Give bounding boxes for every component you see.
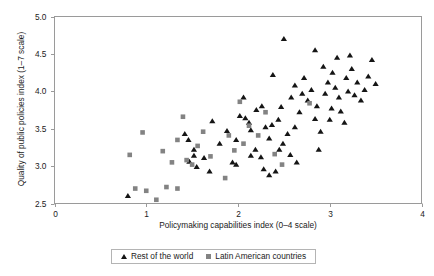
triangle-data-point	[269, 122, 275, 127]
triangle-data-point	[266, 172, 272, 177]
legend-entry-rest-of-world[interactable]: Rest of the world	[121, 252, 193, 260]
triangle-data-point	[308, 87, 314, 92]
square-data-point	[170, 160, 175, 165]
triangle-data-point	[351, 92, 357, 97]
y-tick-marks	[51, 18, 55, 205]
triangle-data-point	[358, 97, 364, 102]
triangle-data-point	[281, 36, 287, 41]
triangle-data-point	[301, 75, 307, 80]
triangle-data-point	[327, 117, 333, 122]
scatter-plot-figure: Quality of public policies index (1–7 sc…	[0, 0, 434, 276]
triangle-data-point	[287, 152, 293, 157]
square-data-point	[181, 114, 186, 119]
triangle-data-point	[343, 75, 349, 80]
triangle-data-point	[194, 164, 200, 169]
x-tick-label: 0	[46, 209, 66, 219]
triangle-data-point	[338, 109, 344, 114]
y-tick-label: 3.5	[23, 124, 47, 134]
data-points-layer	[125, 36, 379, 202]
square-data-point	[154, 197, 159, 202]
triangle-data-point	[276, 147, 282, 152]
triangle-data-point	[294, 159, 300, 164]
square-data-point	[241, 141, 246, 146]
square-data-point	[223, 176, 228, 181]
x-tick-marks	[56, 204, 423, 208]
y-tick-label: 5.0	[23, 12, 47, 22]
axes-group	[54, 16, 422, 204]
triangle-data-point	[229, 159, 235, 164]
triangle-data-point	[240, 94, 246, 99]
triangle-data-point	[185, 137, 191, 142]
x-tick-label: 1	[137, 209, 157, 219]
triangle-data-point	[217, 141, 223, 146]
square-data-point	[144, 188, 149, 193]
triangle-data-point	[266, 136, 272, 141]
square-data-point	[175, 186, 180, 191]
triangle-data-point	[296, 109, 302, 114]
square-data-point	[263, 110, 268, 115]
triangle-data-point	[328, 106, 334, 111]
chart-legend: Rest of the world Latin American countri…	[111, 249, 316, 264]
y-tick-label: 4.0	[23, 86, 47, 96]
triangle-data-point	[182, 131, 188, 136]
x-tick-label: 3	[321, 209, 341, 219]
square-data-point	[133, 186, 138, 191]
triangle-data-point	[334, 55, 340, 60]
triangle-data-point	[275, 117, 281, 122]
triangle-data-point	[288, 94, 294, 99]
triangle-data-point	[312, 47, 318, 52]
triangle-data-point	[292, 124, 298, 129]
triangle-data-point	[191, 153, 197, 158]
triangle-data-point	[347, 52, 353, 57]
triangle-data-point	[365, 73, 371, 78]
square-data-point	[160, 149, 165, 154]
triangle-data-point	[261, 166, 267, 171]
triangle-data-point	[258, 154, 264, 159]
x-tick-label: 4	[413, 209, 433, 219]
triangle-data-point	[278, 104, 284, 109]
series-latin-american	[127, 99, 311, 202]
triangle-data-point	[322, 91, 328, 96]
triangle-data-point	[314, 103, 320, 108]
x-tick-label: 2	[229, 209, 249, 219]
x-axis-label: Policymaking capabilities index (0–4 sca…	[54, 220, 422, 230]
triangle-data-point	[259, 103, 265, 108]
triangle-data-point	[354, 79, 360, 84]
triangle-data-point	[373, 81, 379, 86]
triangle-data-point	[242, 115, 248, 120]
legend-label-rest-of-world: Rest of the world	[131, 252, 193, 260]
square-data-point	[140, 130, 145, 135]
triangle-data-point	[299, 91, 305, 96]
triangle-data-point	[320, 64, 326, 69]
y-axis-label: Quality of public policies index (1–7 sc…	[16, 11, 26, 207]
triangle-data-point	[332, 85, 338, 90]
triangle-marker-icon	[121, 254, 127, 259]
triangle-data-point	[316, 147, 322, 152]
triangle-data-point	[206, 168, 212, 173]
triangle-data-point	[224, 128, 230, 133]
square-data-point	[190, 162, 195, 167]
legend-label-latin-american: Latin American countries	[215, 252, 306, 260]
triangle-data-point	[369, 57, 375, 62]
triangle-data-point	[341, 120, 347, 125]
y-tick-label: 2.5	[23, 199, 47, 209]
square-data-point	[184, 158, 189, 163]
triangle-data-point	[325, 79, 331, 84]
y-tick-label: 3.0	[23, 161, 47, 171]
triangle-data-point	[280, 141, 286, 146]
square-data-point	[272, 152, 277, 157]
triangle-data-point	[253, 107, 259, 112]
legend-entry-latin-american[interactable]: Latin American countries	[206, 252, 306, 260]
series-rest-of-world	[125, 36, 379, 198]
triangle-data-point	[237, 113, 243, 118]
square-marker-icon	[206, 254, 211, 259]
triangle-data-point	[284, 131, 290, 136]
square-data-point	[201, 129, 206, 134]
square-data-point	[227, 133, 232, 138]
square-data-point	[232, 148, 237, 153]
y-tick-label: 4.5	[23, 49, 47, 59]
triangle-data-point	[345, 88, 351, 93]
square-data-point	[164, 185, 169, 190]
triangle-data-point	[312, 116, 318, 121]
square-data-point	[208, 154, 213, 159]
